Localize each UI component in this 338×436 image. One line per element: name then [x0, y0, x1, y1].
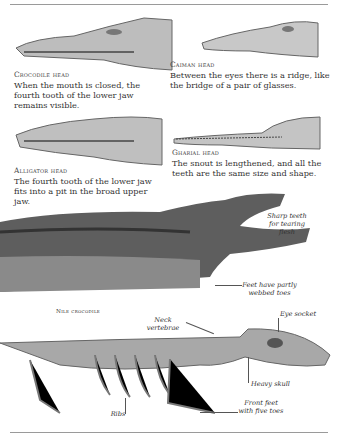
label-heavy-skull: Heavy skull — [248, 380, 293, 388]
bottom-rule — [10, 432, 328, 433]
top-rule — [10, 4, 328, 5]
caiman-head-illustration — [200, 15, 320, 60]
label-webbed-toes: Feet have partly webbed toes — [242, 281, 297, 297]
gharial-head-caption: Gharial head The snout is lengthened, an… — [172, 148, 332, 178]
label-ribs: Ribs — [110, 410, 126, 418]
leader-eye-socket — [278, 318, 279, 332]
caiman-head-title: Caiman head — [170, 60, 330, 70]
leader-front-feet — [200, 412, 238, 413]
crocodile-head-title: Crocodile head — [14, 70, 164, 80]
leader-ribs — [125, 398, 126, 414]
label-neck-vertebrae: Neck vertebrae — [138, 316, 188, 332]
caiman-head-caption: Caiman head Between the eyes there is a … — [170, 60, 330, 90]
label-front-feet: Front feet with five toes — [236, 399, 286, 415]
leader-webbed-toes — [215, 285, 242, 286]
alligator-head-title: Alligator head — [14, 166, 164, 176]
gharial-head-illustration — [172, 113, 322, 153]
label-eye-socket: Eye socket — [278, 310, 318, 318]
nile-crocodile-caption: Nile crocodile — [56, 306, 100, 316]
alligator-head-illustration — [14, 113, 164, 168]
crocodile-head-caption: Crocodile head When the mouth is closed,… — [14, 70, 164, 110]
crocodile-skeleton-illustration — [0, 325, 338, 420]
label-sharp-teeth: Sharp teeth for tearing flesh — [262, 212, 312, 236]
leader-heavy-skull — [248, 357, 249, 383]
gharial-head-title: Gharial head — [172, 148, 332, 158]
crocodile-head-illustration — [14, 8, 174, 73]
